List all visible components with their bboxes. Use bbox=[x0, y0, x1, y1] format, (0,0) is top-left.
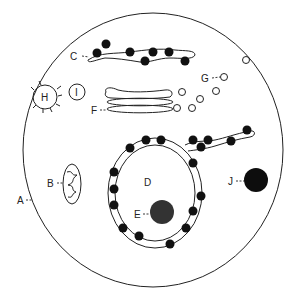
label-g: G bbox=[201, 73, 209, 84]
ribosome bbox=[157, 136, 166, 145]
golgi-vesicle bbox=[174, 105, 181, 112]
ribosome bbox=[110, 201, 119, 210]
ribosome bbox=[197, 192, 206, 201]
ribosome bbox=[126, 48, 135, 57]
nucleolus bbox=[150, 200, 174, 224]
golgi-vesicle bbox=[197, 96, 204, 103]
ribosome bbox=[189, 207, 198, 216]
label-c-leader bbox=[82, 56, 89, 57]
vesicle bbox=[243, 57, 250, 64]
ribosome bbox=[135, 232, 144, 241]
golgi-vesicle bbox=[221, 74, 228, 81]
label-e: E bbox=[134, 209, 141, 220]
ribosome bbox=[182, 224, 191, 233]
golgi-vesicle bbox=[179, 89, 186, 96]
ribosome bbox=[197, 143, 206, 152]
golgi-vesicle bbox=[213, 88, 220, 95]
ribosome bbox=[204, 136, 213, 145]
ribosome bbox=[110, 168, 119, 177]
mitochondrion bbox=[63, 164, 81, 204]
ribosome bbox=[166, 240, 175, 249]
rough-er-top bbox=[88, 40, 195, 66]
label-c: C bbox=[70, 51, 77, 62]
label-j: J bbox=[228, 176, 233, 187]
label-i: I bbox=[75, 87, 78, 98]
label-b: B bbox=[47, 178, 54, 189]
golgi-apparatus bbox=[105, 88, 173, 113]
label-f: F bbox=[91, 105, 97, 116]
ribosome bbox=[165, 48, 174, 57]
label-h: H bbox=[41, 92, 48, 103]
ribosome bbox=[243, 126, 252, 135]
ribosome bbox=[189, 136, 198, 145]
ribosome bbox=[126, 144, 135, 153]
ribosome bbox=[189, 159, 198, 168]
ribosome bbox=[110, 185, 119, 194]
label-d: D bbox=[144, 177, 151, 188]
ribosome bbox=[142, 136, 151, 145]
ribosome bbox=[119, 224, 128, 233]
cell-diagram: C G F H I B A bbox=[0, 0, 296, 300]
ribosome bbox=[102, 40, 111, 49]
organelle-j bbox=[244, 168, 268, 192]
ribosome bbox=[181, 57, 190, 66]
ribosome bbox=[227, 137, 236, 146]
ribosome bbox=[141, 57, 150, 66]
label-g-leader bbox=[212, 77, 220, 78]
ribosome bbox=[149, 48, 158, 57]
golgi-vesicle bbox=[189, 105, 196, 112]
label-a: A bbox=[17, 195, 24, 206]
ribosome bbox=[93, 49, 102, 58]
